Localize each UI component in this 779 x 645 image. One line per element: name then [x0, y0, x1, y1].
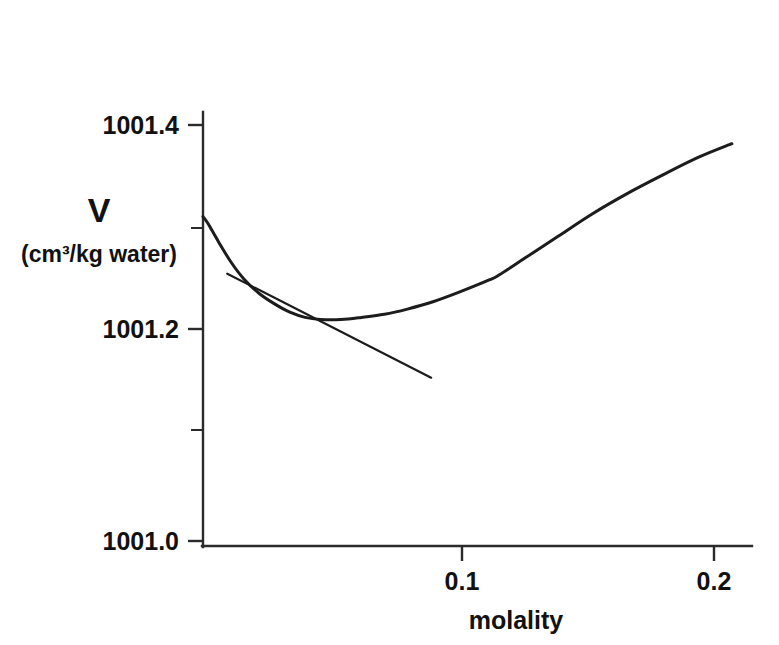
y-tick-label-mid: 1001.2 — [103, 315, 179, 343]
x-tick-label-first: 0.1 — [445, 567, 480, 595]
y-axis-title-units: (cm³/kg water) — [21, 241, 177, 267]
y-axis-title-symbol: V — [88, 191, 111, 229]
y-tick-label-bottom: 1001.0 — [103, 527, 179, 555]
tangent-construction-line — [227, 274, 431, 378]
x-tick-label-second: 0.2 — [697, 567, 732, 595]
chart-page: 1001.4 1001.2 1001.0 0.1 0.2 V (cm³/kg w… — [0, 0, 779, 645]
data-curve-partial-molar-volume — [203, 144, 732, 320]
y-tick-label-top: 1001.4 — [103, 111, 180, 139]
x-axis-title: molality — [469, 606, 564, 634]
plot-area: 1001.4 1001.2 1001.0 0.1 0.2 V (cm³/kg w… — [0, 0, 779, 645]
